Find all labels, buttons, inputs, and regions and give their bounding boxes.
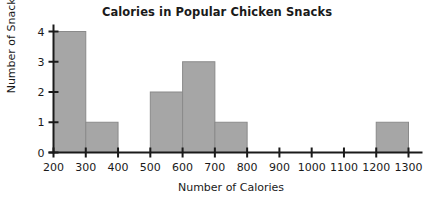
- y-tick-label: 1: [38, 116, 45, 129]
- x-tick-label: 800: [237, 161, 258, 174]
- y-tick-label: 4: [38, 26, 45, 39]
- x-tick-label: 500: [140, 161, 161, 174]
- x-tick-label: 200: [43, 161, 64, 174]
- x-tick-label: 400: [108, 161, 129, 174]
- x-tick-label: 1100: [330, 161, 358, 174]
- x-tick-label: 900: [269, 161, 290, 174]
- histogram-bar: [183, 62, 215, 153]
- x-tick-label: 300: [75, 161, 96, 174]
- histogram-bar: [150, 92, 182, 153]
- x-tick-label: 1300: [395, 161, 423, 174]
- histogram-bar: [215, 122, 247, 152]
- histogram-bar: [86, 122, 118, 152]
- x-tick-label: 1200: [362, 161, 390, 174]
- x-axis-title: Number of Calories: [53, 181, 409, 194]
- histogram-bar: [376, 122, 408, 152]
- y-tick-label: 3: [38, 56, 45, 69]
- x-tick-label: 1000: [298, 161, 326, 174]
- plot-area: 2003004005006007008009001000110012001300…: [0, 0, 434, 207]
- histogram-figure: Calories in Popular Chicken Snacks Numbe…: [0, 0, 434, 207]
- x-tick-label: 600: [172, 161, 193, 174]
- y-tick-label: 2: [38, 86, 45, 99]
- bars-group: [54, 32, 409, 153]
- y-tick-label: 0: [38, 147, 45, 160]
- x-tick-label: 700: [204, 161, 225, 174]
